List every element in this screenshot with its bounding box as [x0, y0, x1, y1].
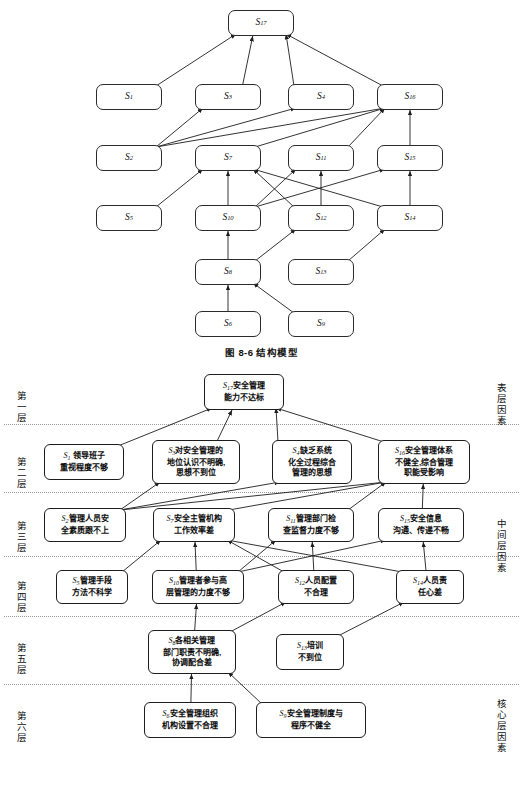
- edge-S10-to-S11: [238, 540, 276, 572]
- edge-S3-to-S17: [218, 410, 232, 440]
- factor-box-s16: S16安全管理体系不健全,综合管理职能受影响: [378, 440, 470, 484]
- structure-node-subscript: 1: [130, 94, 133, 101]
- factor-box-content: S10管理者参与高层管理的力度不够: [166, 576, 230, 598]
- structure-node-s9: S9: [288, 311, 354, 337]
- structure-node-s8: S8: [195, 259, 261, 285]
- factor-text-line: 领导班子: [70, 451, 104, 460]
- factor-box-content: S9安全管理制度与程序不健全: [280, 709, 343, 731]
- factor-text-line: 任心差: [418, 588, 442, 597]
- factor-text-line: 管理人员安: [69, 514, 109, 523]
- structure-node-subscript: 8: [229, 269, 232, 276]
- factor-text-line: 层管理的力度不够: [166, 588, 230, 597]
- factor-box-content: S4缺乏系统化全过程综合管理的思想: [288, 446, 336, 478]
- factor-box-content: S3对安全管理的地位认识不明确,思想不到位: [167, 446, 225, 478]
- factor-text-line: 管理的思想: [292, 468, 332, 477]
- edge-S14-to-S15: [423, 542, 426, 570]
- factor-box-content: S1 领导班子重视程度不够: [60, 451, 108, 473]
- structure-node-subscript: 9: [322, 321, 325, 328]
- factor-box-s17: S17安全管理能力不达标: [204, 374, 284, 410]
- factor-box-content: S11管理部门检查监督力度不够: [283, 514, 339, 536]
- factor-box-s9: S9安全管理制度与程序不健全: [256, 702, 366, 738]
- structure-node-subscript: 13: [320, 269, 326, 276]
- factor-text-line: 安全管理组织: [170, 709, 218, 718]
- factor-box-content: S6安全管理组织机构设置不合理: [162, 709, 218, 731]
- factor-box-s6: S6安全管理组织机构设置不合理: [144, 702, 236, 738]
- factor-box-content: S2管理人员安全素质跟不上: [61, 514, 109, 536]
- edge-S3-to-S17: [243, 36, 253, 84]
- edge-S13-to-S14: [348, 229, 385, 261]
- edge-S2-to-S3: [120, 482, 160, 510]
- factor-text-line: 工作效率差: [174, 526, 214, 535]
- factor-text-line: 重视程度不够: [60, 463, 108, 472]
- edge-S4-to-S17: [276, 408, 278, 442]
- factor-box-s12: S12人员配置不合理: [278, 570, 354, 604]
- level-label-3: 第三层: [14, 520, 30, 553]
- structure-node-s17: S17: [228, 10, 294, 36]
- factor-box-s5: S5管理手段方法不科学: [56, 570, 128, 604]
- edge-S2-to-S3: [156, 108, 203, 147]
- structure-node-s2: S2: [96, 145, 162, 171]
- edge-S6-to-S8: [191, 674, 192, 702]
- structure-node-s4: S4: [288, 84, 354, 110]
- structure-node-subscript: 12: [320, 215, 326, 222]
- structure-node-subscript: 16: [409, 94, 415, 101]
- factor-box-s2: S2管理人员安全素质跟不上: [44, 508, 126, 542]
- edge-S14-to-S7: [253, 169, 383, 207]
- structure-node-subscript: 3: [229, 94, 232, 101]
- structure-node-subscript: 10: [227, 215, 233, 222]
- factor-text-line: 缺乏系统: [300, 446, 332, 455]
- factor-box-content: S17安全管理能力不达标: [223, 381, 265, 403]
- edge-S15-to-S16: [422, 484, 423, 508]
- page-root: S17S1S3S4S16S2S7S11S15S5S10S12S14S8S13S6…: [0, 0, 523, 792]
- factor-text-line: 化全过程综合: [288, 458, 336, 467]
- factor-text-line: 安全管理制度与: [287, 709, 343, 718]
- edge-S9-to-S8: [228, 672, 262, 704]
- factor-box-content: S8各相关管理部门职责不明确,协调配合差: [163, 636, 221, 668]
- structure-node-s15: S15: [377, 145, 443, 171]
- level-label-2: 第二层: [14, 456, 30, 489]
- edge-S13-to-S14: [338, 602, 404, 636]
- factor-text-line: 能力不达标: [224, 393, 264, 402]
- edge-S16-to-S17: [276, 408, 384, 442]
- factor-box-s7: S7安全主管机构工作效率差: [153, 508, 235, 542]
- factor-text-line: 协调配合差: [172, 658, 212, 667]
- factor-box-s11: S11管理部门检查监督力度不够: [268, 508, 354, 542]
- structure-node-s7: S7: [195, 145, 261, 171]
- factor-text-line: 全素质跟不上: [61, 526, 109, 535]
- level-label-6: 第六层: [14, 710, 30, 743]
- structure-node-s5: S5: [96, 205, 162, 231]
- structure-node-subscript: 15: [409, 155, 415, 162]
- structure-model-edges: [0, 0, 523, 345]
- structure-node-subscript: 17: [260, 20, 266, 27]
- edge-S4-to-S17: [286, 34, 294, 86]
- factor-box-content: S5管理手段方法不科学: [72, 576, 112, 598]
- structure-node-subscript: 5: [130, 215, 133, 222]
- factor-text-line: 管理部门检: [296, 514, 336, 523]
- factor-text-line: 不健全,综合管理: [395, 458, 453, 467]
- factor-box-content: S14人员责任心差: [413, 576, 447, 598]
- factor-text-line: 方法不科学: [72, 588, 112, 597]
- edge-S11-to-S16: [348, 482, 386, 510]
- edge-S1-to-S17: [156, 34, 236, 86]
- factor-box-content: S15安全信息沟通、传递不畅: [393, 514, 449, 536]
- factor-text-line: 各相关管理: [175, 636, 215, 645]
- structure-node-s1: S1: [96, 84, 162, 110]
- structure-model-figure: S17S1S3S4S16S2S7S11S15S5S10S12S14S8S13S6…: [0, 0, 523, 345]
- side-label-2: 中间层因素: [494, 518, 510, 573]
- hierarchy-figure: 第一层第二层第三层第四层第五层第六层 表层因素中间层因素核心层因素 S17安全管…: [0, 368, 523, 792]
- factor-text-line: 安全主管机构: [174, 514, 222, 523]
- factor-box-content: S13培训不到位: [297, 641, 323, 663]
- factor-box-content: S7安全主管机构工作效率差: [167, 514, 222, 536]
- factor-box-s8: S8各相关管理部门职责不明确,协调配合差: [148, 630, 236, 674]
- factor-text-line: 不合理: [304, 588, 328, 597]
- structure-node-s3: S3: [195, 84, 261, 110]
- structure-node-s16: S16: [377, 84, 443, 110]
- structure-node-subscript: 6: [229, 321, 232, 328]
- side-label-1: 表层因素: [494, 382, 510, 426]
- factor-text-line: 思想不到位: [176, 468, 216, 477]
- edge-S10-to-S7: [195, 542, 196, 570]
- structure-node-s13: S13: [288, 259, 354, 285]
- factor-text-line: 职能受影响: [404, 468, 444, 477]
- factor-text-line: 程序不健全: [291, 721, 331, 730]
- level-label-4: 第四层: [14, 580, 30, 613]
